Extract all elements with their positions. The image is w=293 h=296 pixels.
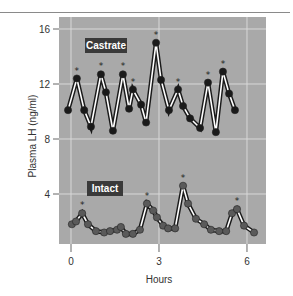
pulse-marker: * <box>181 173 186 183</box>
castrate-label: Castrate <box>86 40 126 51</box>
data-point <box>223 228 230 235</box>
pulse-marker: * <box>121 61 126 71</box>
pulse-marker: * <box>99 61 104 71</box>
data-point <box>122 230 129 237</box>
pulse-marker: * <box>176 77 181 87</box>
pulse-marker: * <box>80 200 85 210</box>
data-point <box>179 102 186 109</box>
data-point <box>81 107 88 114</box>
data-point <box>196 124 203 131</box>
x-axis: 036 <box>68 244 250 267</box>
castrate-label-box: Castrate <box>85 38 127 53</box>
data-point <box>72 218 79 225</box>
data-point <box>225 90 232 97</box>
data-point <box>129 230 136 237</box>
data-point <box>152 39 159 46</box>
data-point <box>143 200 150 207</box>
data-point <box>172 225 179 232</box>
data-point <box>164 225 171 232</box>
data-point <box>117 223 124 230</box>
data-point <box>204 79 211 86</box>
pulse-marker: * <box>206 70 211 80</box>
pulse-marker: * <box>131 77 136 87</box>
intact-label-box: Intact <box>87 181 123 196</box>
pulse-marker: * <box>235 196 240 206</box>
data-point <box>231 107 238 114</box>
x-axis-title: Hours <box>146 274 173 285</box>
data-point <box>109 127 116 134</box>
data-point <box>240 222 247 229</box>
data-point <box>192 215 199 222</box>
data-point <box>73 75 80 82</box>
y-axis: 481216 <box>39 24 59 200</box>
data-point <box>84 221 91 228</box>
y-tick-label: 8 <box>44 134 50 145</box>
x-tick-label: 3 <box>156 256 162 267</box>
data-point <box>201 221 208 228</box>
data-point <box>216 228 223 235</box>
data-point <box>212 129 219 136</box>
y-tick-label: 4 <box>44 189 50 200</box>
intact-label: Intact <box>92 183 119 194</box>
data-point <box>87 123 94 130</box>
data-point <box>233 206 240 213</box>
y-axis-title: Plasma LH (ng/ml) <box>27 95 38 178</box>
data-point <box>150 207 157 214</box>
pulse-marker: * <box>221 59 226 69</box>
data-point <box>174 86 181 93</box>
data-point <box>102 89 109 96</box>
data-point <box>219 68 226 75</box>
y-tick-label: 16 <box>39 24 51 35</box>
data-point <box>153 214 160 221</box>
data-point <box>250 229 257 236</box>
data-point <box>92 228 99 235</box>
lh-pulse-chart: 481216 036 ******** **** Castrate Intact… <box>0 0 293 296</box>
data-point <box>207 226 214 233</box>
data-point <box>157 76 164 83</box>
x-tick-label: 0 <box>68 256 74 267</box>
data-point <box>136 226 143 233</box>
data-point <box>179 182 186 189</box>
data-point <box>129 86 136 93</box>
data-point <box>184 200 191 207</box>
y-tick-label: 12 <box>39 79 51 90</box>
data-point <box>97 71 104 78</box>
data-point <box>142 119 149 126</box>
data-point <box>64 107 71 114</box>
data-point <box>125 105 132 112</box>
data-point <box>106 228 113 235</box>
pulse-marker: * <box>154 30 159 40</box>
data-point <box>79 210 86 217</box>
data-point <box>186 115 193 122</box>
x-tick-label: 6 <box>244 256 250 267</box>
data-point <box>119 71 126 78</box>
data-point <box>137 101 144 108</box>
data-point <box>165 107 172 114</box>
pulse-marker: * <box>75 66 80 76</box>
pulse-marker: * <box>145 191 150 201</box>
